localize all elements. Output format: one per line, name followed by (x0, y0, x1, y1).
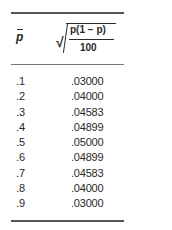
header-p-hat: p (16, 30, 23, 44)
p-value: .9 (16, 197, 25, 209)
p-value: .5 (16, 136, 25, 148)
table-row: .2.04000 (0, 90, 172, 105)
std-error-value: .04583 (71, 106, 103, 118)
std-error-value: .04583 (71, 167, 103, 179)
std-error-value: .03000 (71, 197, 103, 209)
table-row: .1.03000 (0, 75, 172, 90)
p-value: .2 (16, 90, 25, 102)
std-error-value: .04000 (71, 182, 103, 194)
fraction-bar (69, 39, 114, 40)
table-row: .3.04583 (0, 106, 172, 121)
table-row: .6.04899 (0, 151, 172, 166)
p-value: .6 (16, 151, 25, 163)
table-row: .8.04000 (0, 182, 172, 197)
formula-denominator: 100 (80, 42, 97, 53)
p-value: .8 (16, 182, 25, 194)
top-rule (11, 12, 124, 14)
std-error-value: .03000 (71, 75, 103, 87)
table-row: .4.04899 (0, 121, 172, 136)
p-value: .7 (16, 167, 25, 179)
header-rule (11, 64, 124, 65)
formula-numerator: p(1 − p) (70, 24, 106, 35)
header-standard-error-formula: √ p(1 − p) 100 (56, 20, 118, 60)
p-hat-symbol: p (16, 30, 23, 44)
p-value: .1 (16, 75, 25, 87)
table-row: .9.03000 (0, 197, 172, 212)
table-row: .5.05000 (0, 136, 172, 151)
p-value: .3 (16, 106, 25, 118)
std-error-value: .04899 (71, 121, 103, 133)
table-row: .7.04583 (0, 167, 172, 182)
bottom-rule (11, 220, 124, 222)
p-value: .4 (16, 121, 25, 133)
table-body: .1.03000 .2.04000 .3.04583 .4.04899 .5.0… (0, 75, 172, 213)
std-error-value: .04899 (71, 151, 103, 163)
std-error-value: .05000 (71, 136, 103, 148)
std-error-value: .04000 (71, 90, 103, 102)
